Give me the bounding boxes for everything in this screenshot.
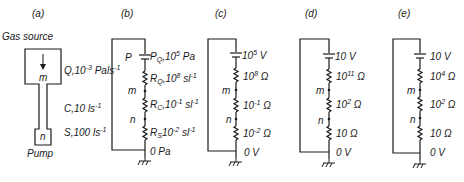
ground-pressure-label: 0 Pa xyxy=(150,146,171,157)
ground-voltage-label: 0 V xyxy=(244,147,260,158)
resistance-1-label: 104 Ω xyxy=(430,70,456,82)
resistance-rq-label: RQ,108 sl-1 xyxy=(150,72,197,86)
resistance-3-label: 10 Ω xyxy=(430,128,452,139)
node-m-label: m xyxy=(128,85,136,96)
resistance-1-label: 1011 Ω xyxy=(336,70,365,82)
resistance-2-label: 10-1 Ω xyxy=(243,99,271,111)
resistance-2-label: 102 Ω xyxy=(336,98,362,110)
source-voltage-label: 105 V xyxy=(242,49,268,61)
resistance-rs-label: RS10-2 sl-1 xyxy=(150,126,196,139)
panel-d-label: (d) xyxy=(305,8,317,19)
voltage-source-symbol xyxy=(230,53,242,57)
conductance-label: C,10 ls-1 xyxy=(64,102,101,114)
node-m-label: m xyxy=(407,85,415,96)
vacuum-electrical-analogy-figure: (a) Gas source m n Pump Q,10-3 Pals-1 C,… xyxy=(0,0,464,182)
node-m-label: m xyxy=(222,85,230,96)
panel-d: (d) m n 10 V 1011 Ω 102 Ω 10 Ω 0 V xyxy=(300,8,365,167)
node-n-label: n xyxy=(318,115,324,126)
panel-b-label: (b) xyxy=(121,8,133,19)
voltage-source-symbol xyxy=(323,54,335,58)
circuit-loop xyxy=(393,39,420,153)
source-voltage-label: 10 V xyxy=(430,51,452,62)
panel-e: (e) m n 10 V 104 Ω 102 Ω 10 Ω 0 V xyxy=(393,8,456,168)
panel-a-label: (a) xyxy=(32,8,44,19)
pump-label: Pump xyxy=(27,148,54,159)
voltage-source-symbol xyxy=(414,54,426,58)
panel-c: (c) m n 105 V 108 Ω 10-1 Ω 10-2 Ω 0 V xyxy=(208,8,271,166)
ground-icon xyxy=(138,157,151,165)
ground-icon xyxy=(322,159,335,167)
down-arrow-icon xyxy=(40,54,46,70)
panel-c-label: (c) xyxy=(215,8,227,19)
node-m-label: m xyxy=(316,85,324,96)
resistor-rs xyxy=(143,126,147,140)
pumping-speed-label: S,100 ls-1 xyxy=(64,126,106,138)
resistor-1 xyxy=(327,69,331,83)
resistor-3 xyxy=(327,126,331,140)
ground-voltage-label: 0 V xyxy=(430,147,446,158)
resistance-1-label: 108 Ω xyxy=(243,70,269,82)
circuit-loop xyxy=(300,39,329,152)
gas-source-label: Gas source xyxy=(2,31,54,42)
ground-voltage-label: 0 V xyxy=(336,147,352,158)
resistance-rc-label: RC,10-1 sl-1 xyxy=(150,98,199,111)
resistance-2-label: 102 Ω xyxy=(430,98,456,110)
source-voltage-label: 10 V xyxy=(335,51,357,62)
resistor-1 xyxy=(418,69,422,83)
node-m-label: m xyxy=(39,72,47,83)
panel-b: (b) P m n PQ,105 Pa RQ,108 sl-1 RC,10-1 … xyxy=(112,8,199,165)
node-n-label: n xyxy=(226,114,232,125)
resistance-3-label: 10-2 Ω xyxy=(243,127,271,139)
node-n-label: n xyxy=(410,114,416,125)
resistor-2 xyxy=(327,98,331,112)
ground-icon xyxy=(413,160,426,168)
resistor-rq xyxy=(143,71,147,85)
node-n-label: n xyxy=(40,131,46,142)
panel-a: (a) Gas source m n Pump Q,10-3 Pals-1 C,… xyxy=(2,8,120,159)
node-p-label: P xyxy=(125,52,132,63)
resistor-3 xyxy=(418,126,422,140)
resistor-3 xyxy=(234,126,238,140)
ground-icon xyxy=(229,158,242,166)
resistor-2 xyxy=(418,97,422,111)
resistor-1 xyxy=(234,68,238,82)
resistance-3-label: 10 Ω xyxy=(336,128,358,139)
resistor-rc xyxy=(143,98,147,112)
resistor-2 xyxy=(234,98,238,112)
node-n-label: n xyxy=(130,114,136,125)
panel-e-label: (e) xyxy=(398,8,410,19)
source-pressure-label: PQ,105 Pa xyxy=(150,50,195,64)
